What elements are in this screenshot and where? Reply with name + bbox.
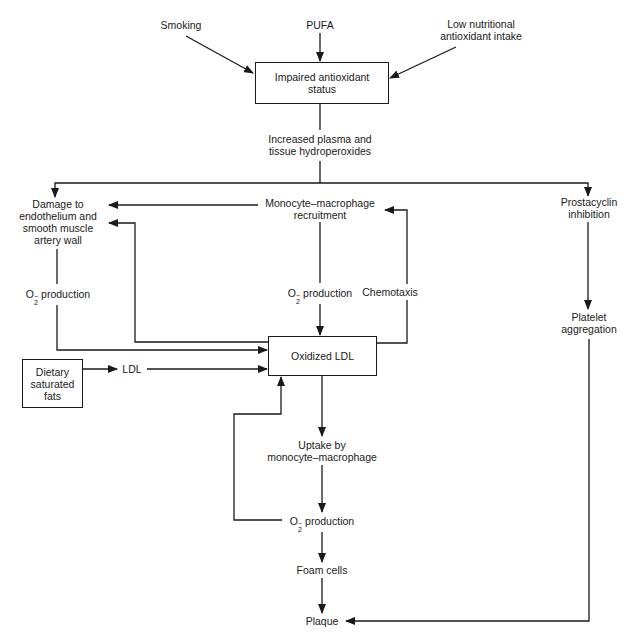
- node-monocyte-recruitment: Monocyte–macrophage recruitment: [263, 197, 377, 221]
- node-uptake-line2: monocyte–macrophage: [267, 451, 377, 463]
- node-pufa: PUFA: [304, 19, 335, 31]
- node-hydroperoxides-line2: tissue hydroperoxides: [268, 145, 371, 157]
- node-monocyte-line1: Monocyte–macrophage: [265, 197, 375, 209]
- node-monocyte-line2: recruitment: [265, 209, 375, 221]
- o2-sub: 2: [34, 300, 38, 306]
- node-foam-cells: Foam cells: [295, 564, 350, 576]
- o2-text: production: [305, 515, 354, 527]
- node-damage-line4: artery wall: [19, 234, 97, 246]
- node-damage-line1: Damage to: [19, 198, 97, 210]
- node-chemotaxis: Chemotaxis: [360, 286, 419, 298]
- node-impaired-antioxidant-status: Impaired antioxidant status: [255, 62, 389, 104]
- o2-symbol: O: [290, 515, 298, 527]
- node-prostacyclin-inhibition: Prostacyclin inhibition: [559, 196, 620, 220]
- node-oxidized-ldl-label: Oxidized LDL: [291, 350, 354, 362]
- arrow-bus-to-prostacyclin: [320, 183, 588, 196]
- node-plaque: Plaque: [304, 615, 341, 627]
- arrow-platelet-to-plaque: [346, 339, 589, 621]
- node-uptake-monocyte: Uptake by monocyte–macrophage: [265, 439, 379, 463]
- o2-symbol: O: [26, 288, 34, 300]
- node-platelet-line1: Platelet: [561, 311, 616, 323]
- node-dietary-line2: saturated: [31, 378, 75, 390]
- node-damage-line3: smooth muscle: [19, 222, 97, 234]
- node-low-antioxidant-line2: antioxidant intake: [440, 30, 522, 42]
- arrow-damage-to-oxldl: [57, 302, 267, 350]
- node-platelet-aggregation: Platelet aggregation: [559, 311, 618, 335]
- o2-symbol: O: [288, 287, 296, 299]
- arrow-chemotaxis-to-monocyte: [385, 210, 407, 284]
- arrow-low-antioxidant-to-impaired: [390, 47, 456, 78]
- node-damage-line2: endothelium and: [19, 210, 97, 222]
- node-impaired-line1: Impaired antioxidant: [275, 71, 370, 83]
- node-uptake-line1: Uptake by: [267, 439, 377, 451]
- node-impaired-line2: status: [275, 83, 370, 95]
- node-dietary-line3: fats: [31, 390, 75, 402]
- node-hydroperoxides-line1: Increased plasma and: [268, 133, 371, 145]
- o2-text: production: [41, 288, 90, 300]
- node-dietary-saturated-fats: Dietary saturated fats: [22, 359, 83, 408]
- node-low-antioxidant-line1: Low nutritional: [440, 18, 522, 30]
- node-prostacyclin-line2: inhibition: [561, 208, 618, 220]
- arrow-bus-to-damage: [55, 183, 320, 197]
- o2-text: production: [303, 287, 352, 299]
- o2-sub: 2: [296, 299, 300, 305]
- node-o2-production-center: O−2production: [286, 287, 354, 304]
- arrow-smoking-to-impaired: [186, 36, 253, 73]
- node-smoking: Smoking: [159, 19, 204, 31]
- node-ldl: LDL: [120, 363, 143, 375]
- node-o2-production-bottom: O−2production: [288, 515, 356, 532]
- arrow-oxldl-to-damage: [109, 223, 268, 342]
- node-dietary-line1: Dietary: [31, 366, 75, 378]
- node-hydroperoxides: Increased plasma and tissue hydroperoxid…: [266, 133, 373, 157]
- node-o2-production-left: O−2production: [24, 288, 92, 305]
- node-prostacyclin-line1: Prostacyclin: [561, 196, 618, 208]
- line-oxldl-to-chemotaxis: [376, 300, 407, 343]
- node-oxidized-ldl: Oxidized LDL: [268, 336, 377, 376]
- node-damage-artery-wall: Damage to endothelium and smooth muscle …: [17, 198, 99, 246]
- node-low-antioxidant: Low nutritional antioxidant intake: [438, 18, 524, 42]
- node-platelet-line2: aggregation: [561, 323, 616, 335]
- o2-sub: 2: [298, 527, 302, 533]
